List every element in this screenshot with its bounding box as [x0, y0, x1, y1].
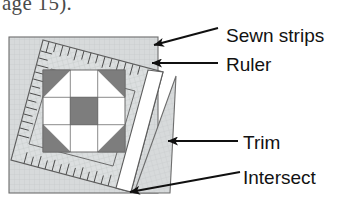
arrow-left-icon-sewn-strips [154, 28, 218, 45]
quilting-diagram-figure: age 15). [0, 0, 352, 204]
cropped-body-text: age 15). [2, 0, 72, 16]
block-cell-center [70, 97, 97, 124]
callout-label-sewn-strips: Sewn strips [226, 26, 324, 45]
quilt-block [43, 70, 125, 152]
callout-label-ruler: Ruler [226, 55, 271, 74]
callout-label-intersect: Intersect [243, 168, 316, 187]
callout-label-trim: Trim [243, 133, 280, 152]
